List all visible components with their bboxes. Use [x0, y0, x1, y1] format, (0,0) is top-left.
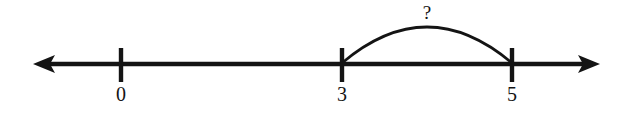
span-arc-3-to-5 — [342, 27, 512, 63]
number-line-canvas — [0, 0, 629, 113]
arc-unknown-label: ? — [407, 3, 447, 22]
tick-label-3: 3 — [322, 84, 362, 104]
tick-label-0: 0 — [101, 84, 141, 104]
tick-label-5: 5 — [492, 84, 532, 104]
number-line-figure: 0 3 5 ? — [0, 0, 629, 113]
